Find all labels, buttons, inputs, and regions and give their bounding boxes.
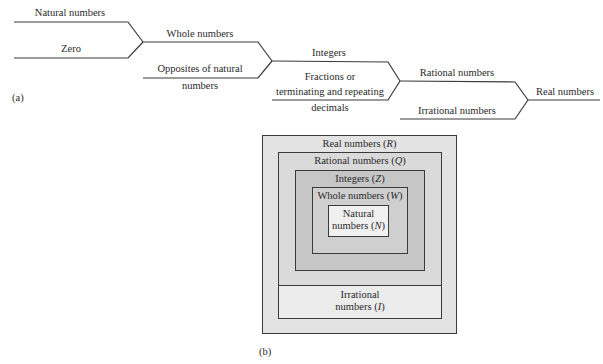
set-integers-label: Integers (Z) bbox=[296, 173, 424, 185]
set-rational-label: Rational numbers (Q) bbox=[279, 155, 441, 167]
panel-b-tag: (b) bbox=[259, 346, 271, 358]
node-zero: Zero bbox=[14, 43, 128, 55]
node-opposites-line1: Opposites of natural bbox=[143, 63, 257, 75]
set-real-label: Real numbers (R) bbox=[263, 138, 456, 150]
set-irrational-numbers: Irrational numbers (I) bbox=[278, 285, 442, 319]
node-fractions-line1: Fractions or bbox=[268, 71, 392, 83]
node-whole-numbers: Whole numbers bbox=[143, 28, 257, 40]
set-natural-numbers: Natural numbers (N) bbox=[328, 205, 389, 237]
node-integers: Integers bbox=[272, 47, 386, 59]
node-fractions-line3: decimals bbox=[268, 102, 392, 114]
node-fractions-line2: terminating and repeating bbox=[268, 86, 392, 98]
node-irrational-numbers: Irrational numbers bbox=[400, 105, 514, 117]
set-irrational-label: Irrational numbers (I) bbox=[279, 289, 441, 313]
set-natural-label: Natural numbers (N) bbox=[329, 208, 388, 232]
set-whole-label: Whole numbers (W) bbox=[313, 190, 407, 202]
node-natural-numbers: Natural numbers bbox=[14, 7, 126, 19]
node-real-numbers: Real numbers bbox=[528, 86, 602, 98]
panel-a-tag: (a) bbox=[12, 92, 24, 104]
node-opposites-line2: numbers bbox=[143, 80, 257, 92]
node-rational-numbers: Rational numbers bbox=[400, 67, 514, 79]
panel-b-nested-sets: Real numbers (R) Rational numbers (Q) Ir… bbox=[0, 130, 603, 364]
panel-a-tree-diagram: Natural numbers Zero Whole numbers Oppos… bbox=[0, 0, 603, 130]
